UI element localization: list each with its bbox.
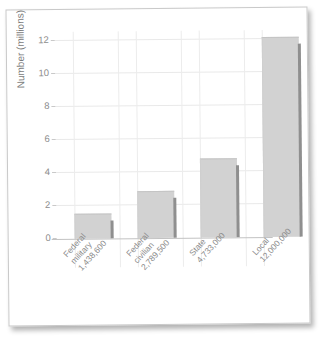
bar-shadow-federal-military — [111, 220, 114, 238]
gridline-x-2b — [181, 31, 184, 267]
gridline-y-4 — [56, 170, 272, 173]
gridline-y-12 — [55, 38, 271, 41]
y-tick-label-8: 8 — [25, 101, 49, 111]
y-tick-mark-12 — [51, 40, 55, 41]
y-tick-label-6: 6 — [26, 134, 50, 144]
y-tick-mark-4 — [52, 172, 56, 173]
bar-shadow-state — [236, 165, 240, 237]
bar-local[interactable] — [262, 37, 301, 237]
y-tick-label-4: 4 — [26, 167, 50, 177]
y-tick-label-12: 12 — [25, 35, 49, 45]
chart-page: Number (millions) 12 10 8 6 4 2 0 — [5, 7, 310, 327]
screenshot-canvas: Number (millions) 12 10 8 6 4 2 0 — [0, 0, 320, 337]
gridline-y-10 — [55, 71, 271, 74]
gridline-y-8 — [55, 104, 271, 107]
y-tick-mark-2 — [52, 205, 56, 206]
plot-area: 12 10 8 6 4 2 0 — [55, 30, 273, 240]
y-tick-mark-10 — [51, 73, 55, 74]
y-tick-label-2: 2 — [26, 200, 50, 210]
gridline-x-1b — [118, 31, 121, 267]
bar-shadow-federal-civilian — [173, 198, 176, 238]
bar-shadow-local — [298, 44, 303, 237]
gridline-x-3b — [244, 30, 247, 266]
y-tick-label-10: 10 — [25, 68, 49, 78]
y-tick-mark-6 — [52, 139, 56, 140]
bar-state[interactable] — [200, 158, 238, 237]
y-tick-label-0: 0 — [27, 233, 51, 243]
gridline-y-6 — [56, 137, 272, 140]
y-tick-mark-8 — [51, 106, 55, 107]
